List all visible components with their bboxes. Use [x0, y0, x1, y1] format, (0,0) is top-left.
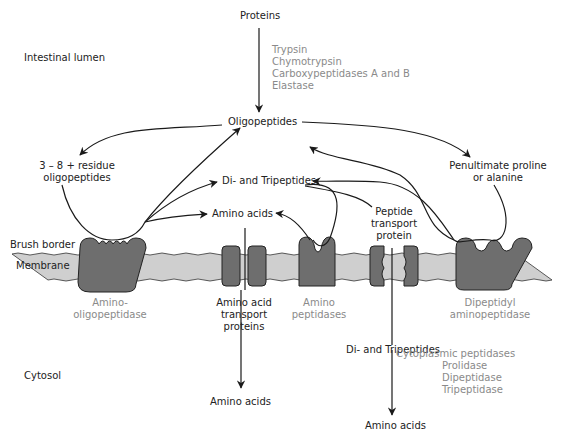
cyto-tripeptidase: Tripeptidase: [396, 384, 504, 396]
enzyme-trypsin: Trypsin: [272, 44, 410, 56]
label-di-tripeptides-lumen: Di- and Tripeptides: [222, 175, 316, 187]
aa-transport-line1: Amino acid: [206, 297, 282, 309]
cyto-prolidase: Prolidase: [396, 360, 504, 372]
peptide-transport-protein-left: [370, 246, 384, 286]
aa-transport-protein-left: [222, 246, 240, 286]
amino-oligo-line2: oligopeptidase: [60, 309, 160, 321]
dipeptidyl-line2: aminopeptidase: [440, 309, 540, 321]
arrow-oligo-to-residue: [80, 125, 222, 155]
label-amino-acids-lumen: Amino acids: [212, 208, 273, 220]
region-intestinal-lumen: Intestinal lumen: [24, 52, 105, 64]
region-membrane: Membrane: [16, 260, 70, 272]
amino-pep-line1: Amino: [284, 297, 354, 309]
cytoplasmic-title: Cytoplasmic peptidases: [396, 348, 504, 360]
amino-oligo-line1: Amino-: [60, 297, 160, 309]
aa-transport-line2: transport: [206, 309, 282, 321]
arrow-aminopep-to-aa: [276, 213, 310, 240]
dipeptidyl-line1: Dipeptidyl: [440, 297, 540, 309]
peptide-transport-line1: Peptide: [364, 206, 424, 218]
cyto-dipeptidase: Dipeptidase: [396, 372, 504, 384]
pancreatic-enzymes: Trypsin Chymotrypsin Carboxypeptidases A…: [272, 44, 410, 92]
region-cytosol: Cytosol: [24, 370, 61, 382]
label-amino-oligopeptidase: Amino- oligopeptidase: [60, 297, 160, 321]
curve-residue-to-aminooligo: [62, 185, 145, 240]
penultimate-line1: Penultimate proline: [444, 160, 552, 172]
aa-transport-protein-right: [248, 246, 266, 286]
region-brush-border: Brush border: [10, 239, 75, 251]
label-dipeptidyl-aminopeptidase: Dipeptidyl aminopeptidase: [440, 297, 540, 321]
enzyme-carboxypeptidases: Carboxypeptidases A and B: [272, 68, 410, 80]
curve-ditri-to-peptide-transport: [305, 186, 372, 207]
curve-ditri-to-aminopep: [305, 184, 337, 245]
label-oligopeptides: Oligopeptides: [228, 116, 297, 128]
label-penultimate: Penultimate proline or alanine: [444, 160, 552, 184]
arrow-aminooligo-to-aa: [145, 214, 207, 222]
peptide-transport-line2: transport: [364, 218, 424, 230]
label-amino-acids-cytosol-left: Amino acids: [210, 396, 271, 408]
enzyme-elastase: Elastase: [272, 80, 410, 92]
amino-pep-line2: peptidases: [284, 309, 354, 321]
aa-transport-line3: proteins: [206, 321, 282, 333]
label-proteins: Proteins: [240, 10, 280, 22]
peptide-transport-protein-right: [404, 246, 418, 286]
peptide-transport-line3: protein: [364, 230, 424, 242]
label-aa-transport-proteins: Amino acid transport proteins: [206, 297, 282, 333]
amino-oligopeptidase-protein: [78, 238, 146, 292]
penultimate-line2: or alanine: [444, 172, 552, 184]
enzyme-chymotrypsin: Chymotrypsin: [272, 56, 410, 68]
label-peptide-transport-protein: Peptide transport protein: [364, 206, 424, 242]
label-amino-peptidases: Amino peptidases: [284, 297, 354, 321]
cytoplasmic-peptidases: Cytoplasmic peptidases Prolidase Dipepti…: [396, 348, 504, 396]
label-amino-acids-cytosol-right: Amino acids: [365, 420, 426, 432]
residue-line1: 3 – 8 + residue: [32, 160, 122, 172]
label-residue-oligopeptides: 3 – 8 + residue oligopeptides: [32, 160, 122, 184]
dipeptidyl-aminopeptidase-protein: [456, 238, 532, 290]
residue-line2: oligopeptides: [32, 172, 122, 184]
arrow-oligo-to-penultimate: [302, 122, 470, 157]
